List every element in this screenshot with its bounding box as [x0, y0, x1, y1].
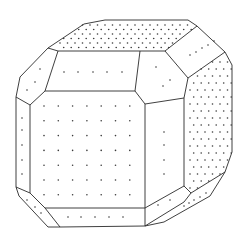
lattice-dot — [230, 110, 232, 112]
lattice-dot — [163, 131, 165, 133]
lattice-dot — [179, 24, 181, 26]
lattice-dot — [208, 180, 210, 182]
lattice-dot — [195, 51, 197, 53]
polyhedron-edges — [16, 20, 232, 227]
lattice-dot — [197, 75, 199, 77]
lattice-dot — [112, 42, 114, 44]
lattice-dot — [115, 47, 117, 49]
lattice-dot — [104, 33, 106, 35]
lattice-dot — [67, 216, 69, 218]
polyhedron-diagram — [0, 0, 249, 245]
lattice-dot — [26, 89, 28, 91]
lattice-dot — [134, 24, 136, 26]
lattice-dot — [43, 135, 45, 137]
lattice-dot — [204, 117, 206, 119]
lattice-dot — [189, 173, 191, 175]
lattice-dot — [193, 199, 195, 201]
lattice-dot — [85, 29, 87, 31]
lattice-dot — [193, 96, 195, 98]
lattice-dot — [172, 24, 174, 26]
lattice-dot — [215, 138, 217, 140]
lattice-dot — [169, 79, 171, 81]
bottom-right-edge — [145, 186, 184, 208]
lattice-dot — [100, 179, 102, 181]
lattice-dot — [219, 61, 221, 63]
lattice-dot — [197, 131, 199, 133]
lattice-dot — [205, 192, 207, 194]
lattice-dot — [104, 24, 106, 26]
lattice-dot — [58, 120, 60, 122]
lattice-dot — [223, 124, 225, 126]
lattice-dot — [149, 33, 151, 35]
lattice-dot — [74, 42, 76, 44]
lattice-dot — [223, 138, 225, 140]
lattice-dot — [208, 138, 210, 140]
lattice-dot — [43, 194, 45, 196]
lattice-dot — [108, 38, 110, 40]
lattice-dot — [100, 164, 102, 166]
lattice-dot — [230, 68, 232, 70]
lattice-dot — [200, 180, 202, 182]
lattice-dot — [204, 145, 206, 147]
lattice-dot — [70, 47, 72, 49]
lattice-dot — [168, 29, 170, 31]
lattice-dot — [108, 47, 110, 49]
lattice-dot — [123, 38, 125, 40]
lattice-dot — [130, 29, 132, 31]
lattice-dot — [123, 29, 125, 31]
lattice-dot — [115, 38, 117, 40]
lattice-dot — [212, 131, 214, 133]
lattice-dot — [230, 82, 232, 84]
lattice-dot — [100, 105, 102, 107]
lattice-dot — [119, 24, 121, 26]
lattice-dot — [94, 216, 96, 218]
lattice-dot — [129, 135, 131, 137]
lattice-dot — [34, 81, 36, 83]
lattice-dot — [200, 166, 202, 168]
lattice-dot — [97, 24, 99, 26]
lattice-dot — [204, 75, 206, 77]
lattice-dot — [153, 38, 155, 40]
lattice-dot — [77, 71, 79, 73]
lattice-dot — [58, 194, 60, 196]
lattice-dot — [72, 179, 74, 181]
lattice-dot — [207, 44, 209, 46]
lattice-dot — [201, 47, 203, 49]
lattice-dot — [86, 135, 88, 137]
lattice-dot — [78, 29, 80, 31]
lattice-dot — [200, 110, 202, 112]
lattice-dot — [212, 61, 214, 63]
lattice-dot — [74, 33, 76, 35]
lattice-dot — [115, 164, 117, 166]
lattice-dot — [121, 71, 123, 73]
lattice-dot — [129, 105, 131, 107]
lattice-dot — [70, 38, 72, 40]
lattice-dot — [193, 152, 195, 154]
lattice-dot — [212, 89, 214, 91]
lattice-dot — [179, 33, 181, 35]
lattice-dot — [43, 120, 45, 122]
lattice-dot — [200, 82, 202, 84]
lattice-dot — [58, 179, 60, 181]
lattice-dot — [134, 42, 136, 44]
lattice-dot — [59, 42, 61, 44]
lattice-dot — [72, 135, 74, 137]
lattice-dot — [145, 29, 147, 31]
lattice-dot — [157, 33, 159, 35]
lattice-dot — [63, 47, 65, 49]
lattice-dot — [86, 179, 88, 181]
lattice-dot — [43, 105, 45, 107]
lattice-dot — [123, 47, 125, 49]
lattice-dot — [175, 38, 177, 40]
lattice-dot — [189, 131, 191, 133]
lattice-dot — [160, 29, 162, 31]
lattice-dot — [145, 47, 147, 49]
lattice-dot — [219, 145, 221, 147]
lattice-dot — [86, 164, 88, 166]
lattice-dot — [157, 204, 159, 206]
lattice-dot — [212, 75, 214, 77]
lattice-dot — [127, 42, 129, 44]
lattice-dot — [204, 89, 206, 91]
lattice-dot — [213, 40, 215, 42]
lattice-dot — [21, 129, 23, 131]
